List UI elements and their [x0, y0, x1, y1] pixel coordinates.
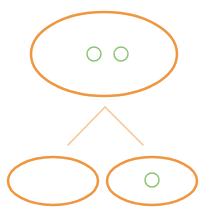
token-circle-icon: [114, 47, 128, 61]
root-node-ellipse: [31, 12, 177, 96]
edge-line: [105, 107, 143, 145]
right-child-node: [107, 157, 197, 205]
root-node: [31, 12, 177, 96]
tree-diagram: [0, 0, 209, 216]
token-circle-icon: [145, 173, 159, 187]
token-circle-icon: [87, 47, 101, 61]
edges: [68, 107, 143, 145]
left-child-node-ellipse: [8, 157, 98, 205]
right-child-node-ellipse: [107, 157, 197, 205]
edge-line: [68, 107, 105, 145]
left-child-node: [8, 157, 98, 205]
